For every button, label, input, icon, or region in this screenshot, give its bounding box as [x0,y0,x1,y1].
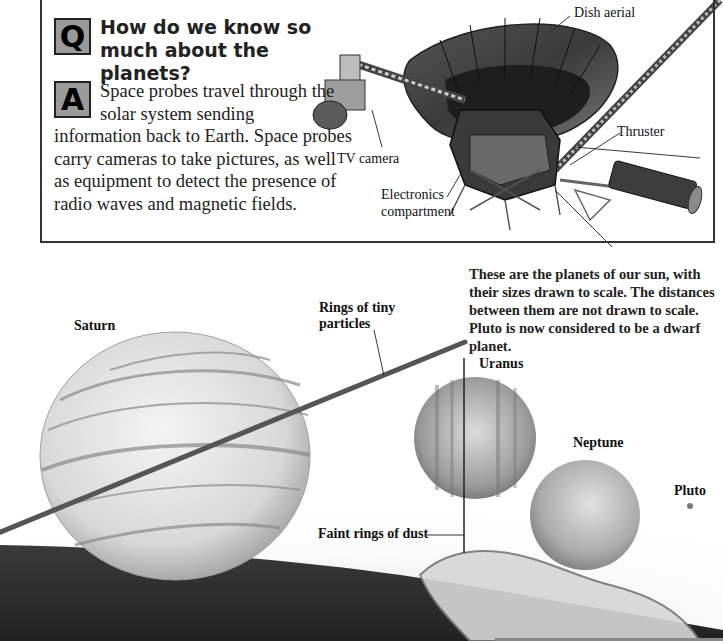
neptune-planet [530,460,640,570]
uranus-planet [414,377,536,499]
label-dish-aerial: Dish aerial [574,4,635,21]
label-neptune: Neptune [573,434,624,451]
label-rings-line2: particles [319,315,370,332]
label-electronics-line2: compartment [381,203,455,220]
question-badge: Q [54,18,91,55]
label-tv-camera: TV camera [337,150,399,167]
label-uranus: Uranus [479,355,523,372]
label-thruster: Thruster [617,123,664,140]
pluto-planet [687,503,693,509]
label-pluto: Pluto [674,482,706,499]
answer-text: Space probes travel through the solar sy… [54,80,354,216]
question-heading: How do we know so much about the planets… [100,16,360,85]
answer-text-first: Space probes travel through the solar sy… [54,80,354,125]
label-electronics-line1: Electronics [381,186,444,203]
label-faint-rings: Faint rings of dust [318,525,428,542]
label-saturn: Saturn [74,317,115,334]
label-rings-line1: Rings of tiny [319,299,395,316]
answer-text-rest: information back to Earth. Space probes … [54,126,352,214]
saturn-planet [40,332,310,580]
planets-caption: These are the planets of our sun, with t… [469,265,723,355]
